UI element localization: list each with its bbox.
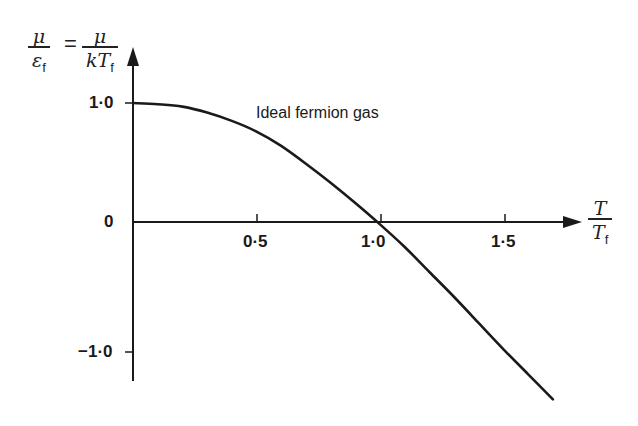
y-ticks	[125, 103, 133, 352]
ylabel-right-den: kTf	[82, 48, 118, 80]
subscript-f: f	[605, 231, 609, 246]
T-symbol: T	[592, 221, 605, 243]
ylabel-right-num: μ	[90, 26, 110, 46]
y-tick-label-1: 1·0	[89, 93, 114, 113]
xlabel-den: Tf	[588, 220, 612, 252]
x-ticks	[257, 214, 505, 222]
kT-symbol: kT	[86, 49, 110, 71]
ylabel-left-den: εf	[28, 48, 50, 80]
ylabel-left-fraction: μ εf	[28, 26, 50, 79]
equals-sign: =	[64, 31, 77, 57]
x-tick-label-0-5: 0·5	[243, 232, 268, 252]
y-axis-arrow-icon	[127, 47, 139, 66]
xlabel-num: T	[590, 198, 611, 218]
y-tick-label-neg1: −1·0	[78, 342, 113, 362]
fermion-curve	[133, 103, 553, 399]
ylabel-right-fraction: μ kTf	[82, 26, 118, 79]
subscript-f: f	[110, 59, 114, 74]
subscript-f: f	[42, 59, 46, 74]
xlabel-fraction: T Tf	[588, 198, 612, 251]
y-tick-label-0: 0	[104, 212, 113, 232]
x-tick-label-1-5: 1·5	[491, 232, 516, 252]
ylabel-left-num: μ	[29, 26, 49, 46]
curve-annotation: Ideal fermion gas	[256, 104, 379, 122]
epsilon-symbol: ε	[32, 49, 42, 71]
x-axis-arrow-icon	[563, 216, 582, 228]
x-tick-label-1-0: 1·0	[361, 232, 386, 252]
